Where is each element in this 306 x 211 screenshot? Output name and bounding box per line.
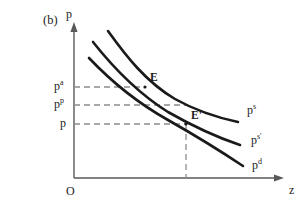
curve-label-ps-sup: s bbox=[253, 102, 256, 111]
diagram-canvas bbox=[0, 0, 306, 211]
curve-label-ps: ps bbox=[247, 104, 256, 116]
economics-diagram-panel-b: (b) p z O pa pp p ps ps' pd E E' bbox=[0, 0, 306, 211]
point-marker-e-prime bbox=[184, 122, 187, 125]
panel-tag: (b) bbox=[43, 14, 58, 27]
point-label-e: E bbox=[150, 72, 158, 84]
price-label-pa-sup: a bbox=[60, 78, 64, 87]
origin-label: O bbox=[66, 185, 75, 197]
price-label-p: p bbox=[60, 117, 66, 129]
price-label-pp-sup: p bbox=[60, 96, 64, 105]
curve-label-pd: pd bbox=[252, 159, 262, 171]
price-label-pp: pp bbox=[54, 98, 64, 110]
x-axis-label: z bbox=[289, 184, 294, 196]
curve-label-ps-prime-sup: s' bbox=[257, 132, 262, 141]
curves-group bbox=[89, 31, 243, 166]
price-label-pa: pa bbox=[54, 80, 64, 92]
y-axis-arrowhead bbox=[70, 22, 77, 32]
curve-label-pd-sup: d bbox=[258, 157, 262, 166]
x-axis-arrowhead bbox=[274, 174, 284, 181]
curve-ps bbox=[108, 31, 238, 122]
point-label-e-prime: E' bbox=[191, 110, 202, 122]
price-label-p-base: p bbox=[60, 116, 66, 130]
curve-label-ps-prime: ps' bbox=[251, 134, 262, 146]
point-marker-e bbox=[143, 85, 146, 88]
y-axis-label: p bbox=[66, 8, 72, 20]
guide-lines-group bbox=[74, 87, 187, 178]
